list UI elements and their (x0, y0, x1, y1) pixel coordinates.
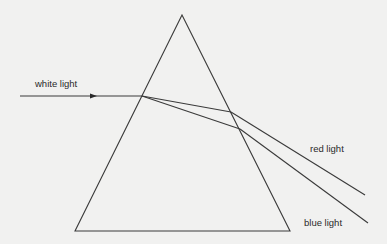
blue-light-label: blue light (304, 218, 342, 228)
blue-ray-exit (240, 129, 368, 223)
prism-triangle (75, 15, 290, 231)
red-light-label: red light (310, 144, 344, 154)
red-ray-internal (142, 96, 231, 112)
prism-dispersion-diagram: white light red light blue light (0, 0, 387, 244)
white-light-label: white light (35, 79, 77, 89)
diagram-graphic (0, 0, 387, 244)
ray-arrow-icon (90, 94, 97, 99)
